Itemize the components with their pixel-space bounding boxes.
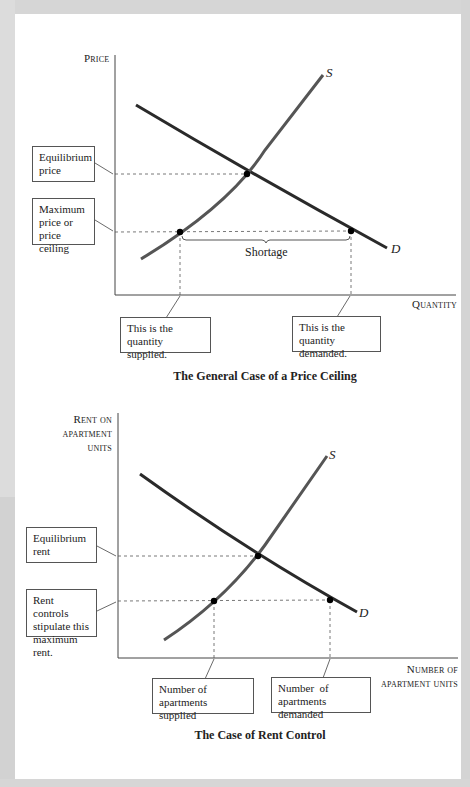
box-line: rent [33, 545, 90, 558]
chart2-supply-curve [164, 456, 327, 640]
chart1-x-axis-label: Quantity [412, 298, 457, 311]
chart1-qd-point [348, 228, 354, 234]
box-line: Equilibrium [33, 532, 90, 545]
chart1-demand-curve [136, 105, 387, 248]
chart1-box-quantity-supplied: This is the quantity supplied. [120, 317, 211, 353]
chart2-leader-ceiling [97, 602, 116, 611]
chart1-leader-eq [95, 163, 113, 174]
box-line: price [39, 164, 88, 177]
box-line: apartments supplied [159, 696, 247, 722]
chart2-equilibrium-point [255, 553, 261, 559]
box-line: Number of [159, 683, 247, 696]
chart1-equilibrium-point [244, 171, 250, 177]
chart1-leader-ceiling [95, 220, 113, 231]
axis-label-line: units [60, 440, 112, 454]
chart2-demand-label: D [359, 605, 368, 621]
box-line: maximum rent. [33, 633, 90, 659]
chart1-demand-label: D [391, 241, 400, 257]
chart2-box-max-rent: Rent controls stipulate this maximum ren… [26, 589, 97, 637]
chart2-leader-qs [205, 659, 214, 679]
chart1-leader-qd [337, 296, 350, 317]
box-line: Equilibrium [39, 151, 88, 164]
chart1-shortage-label: Shortage [245, 246, 288, 259]
chart2-box-apartments-demanded: Number of apartments demanded [271, 677, 371, 713]
chart1-ceiling-dash [115, 231, 351, 232]
chart1-box-equilibrium-price: Equilibrium price [32, 146, 95, 182]
box-line: Number of [278, 682, 364, 695]
axis-label-line: Number of [380, 662, 458, 676]
chart2-box-apartments-supplied: Number of apartments supplied [152, 678, 254, 714]
box-line: quantity demanded. [299, 334, 374, 360]
chart2-graphics [97, 413, 458, 679]
chart2-qs-point [211, 598, 217, 604]
chart2-box-equilibrium-rent: Equilibrium rent [26, 527, 97, 563]
box-line: Rent controls [33, 594, 90, 620]
axis-label-line: apartment units [380, 676, 458, 690]
chart2-leader-qd [323, 659, 330, 678]
chart1-qs-point [177, 229, 183, 235]
chart1-graphics [95, 55, 456, 318]
chart1-box-quantity-demanded: This is the quantity demanded. [292, 316, 381, 352]
axis-label-line: apartment [60, 426, 112, 440]
chart1-box-price-ceiling: Maximum price or price ceiling [32, 198, 95, 245]
chart2-supply-label: S [329, 447, 336, 463]
chart2-qd-point [327, 597, 333, 603]
box-line: quantity supplied. [127, 335, 204, 361]
chart2-x-axis-label: Number of apartment units [380, 662, 458, 690]
box-line: This is the [127, 322, 204, 335]
chart2-y-axis-label: Rent on apartment units [60, 412, 112, 454]
chart1-supply-label: S [326, 65, 333, 81]
box-line: This is the [299, 321, 374, 334]
box-line: price or [39, 216, 88, 229]
chart1-leader-qs [166, 296, 180, 318]
box-line: apartments demanded [278, 695, 364, 721]
box-line: Maximum [39, 203, 88, 216]
box-line: price ceiling [39, 229, 88, 255]
chart1-caption: The General Case of a Price Ceiling [150, 369, 380, 384]
chart1-shortage-brace [182, 236, 350, 243]
axis-label-line: Rent on [60, 412, 112, 426]
chart2-demand-curve [140, 474, 357, 612]
chart2-caption: The Case of Rent Control [170, 728, 350, 743]
chart2-ceiling-dash [118, 600, 330, 601]
box-line: stipulate this [33, 620, 90, 633]
chart1-y-axis-label: Price [84, 52, 109, 65]
chart2-leader-eq [97, 546, 116, 556]
